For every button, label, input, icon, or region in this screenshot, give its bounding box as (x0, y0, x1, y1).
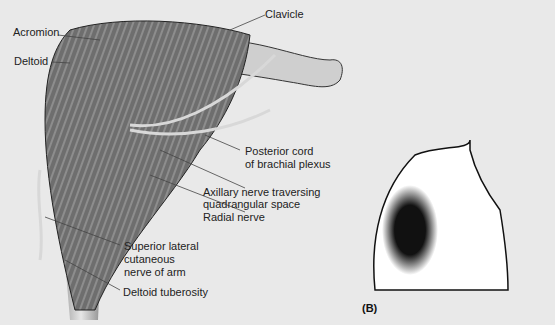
label-posterior-cord-1: Posterior cord (245, 145, 313, 158)
sensory-loss-area (382, 185, 438, 275)
label-acromion: Acromion (13, 26, 59, 39)
label-slcn-2: cutaneous (124, 253, 175, 266)
label-posterior-cord-2: of brachial plexus (245, 158, 331, 171)
label-axillary-2: quadrangular space (203, 198, 300, 211)
panel-b-tag: (B) (362, 302, 377, 314)
label-slcn-3: nerve of arm (124, 266, 186, 279)
label-slcn-1: Superior lateral (124, 240, 199, 253)
label-radial-nerve: Radial nerve (203, 211, 265, 224)
label-deltoid: Deltoid (14, 55, 48, 68)
figure: Acromion Deltoid Clavicle Posterior cord… (0, 0, 555, 325)
label-clavicle: Clavicle (265, 8, 304, 21)
body-outline (374, 140, 508, 290)
label-deltoid-tuberosity: Deltoid tuberosity (123, 286, 208, 299)
